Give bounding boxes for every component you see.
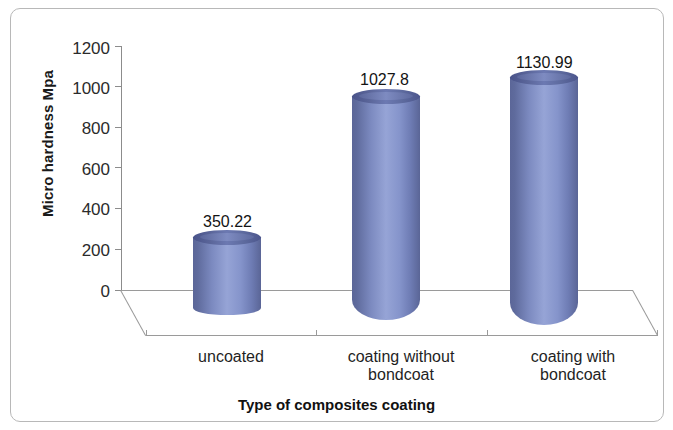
y-tick-label-200: 200 bbox=[54, 242, 110, 259]
bar-top-uncoated bbox=[193, 230, 261, 245]
bar-body-coating-without-bondcoat bbox=[352, 96, 420, 320]
y-tick-label-1000: 1000 bbox=[54, 80, 110, 97]
x-category-uncoated-line1: uncoated bbox=[198, 348, 264, 365]
bar-top-highlight-uncoated bbox=[200, 233, 254, 241]
chart-figure: Micro hardness Mpa 1200 1000 800 600 400… bbox=[0, 0, 673, 430]
x-category-label-uncoated: uncoated bbox=[166, 348, 296, 366]
y-tick-label-0: 0 bbox=[54, 283, 110, 300]
plot-floor-right-edge bbox=[632, 290, 658, 336]
y-tick-mark-200 bbox=[115, 249, 122, 250]
y-tick-mark-1200 bbox=[115, 46, 122, 47]
x-tick-mark-3 bbox=[657, 330, 658, 336]
bar-coating-without-bondcoat bbox=[352, 96, 420, 320]
y-tick-label-400: 400 bbox=[54, 201, 110, 218]
bar-body-uncoated bbox=[193, 237, 261, 315]
x-axis-title: Type of composites coating bbox=[0, 396, 673, 413]
x-category-coating-without-bondcoat-line1: coating without bbox=[326, 348, 476, 366]
x-category-coating-with-bondcoat-line2: bondcoat bbox=[503, 366, 643, 384]
x-tick-mark-0 bbox=[146, 330, 147, 336]
bar-top-coating-with-bondcoat bbox=[510, 70, 578, 85]
y-tick-label-800: 800 bbox=[54, 120, 110, 137]
x-tick-mark-2 bbox=[487, 330, 488, 336]
bar-body-coating-with-bondcoat bbox=[510, 77, 578, 325]
y-tick-label-1200: 1200 bbox=[54, 40, 110, 57]
y-tick-mark-400 bbox=[115, 208, 122, 209]
bar-coating-with-bondcoat bbox=[510, 77, 578, 325]
plot-floor-left-edge bbox=[120, 290, 146, 336]
bar-top-highlight-coating-without-bondcoat bbox=[359, 92, 413, 100]
y-tick-label-600: 600 bbox=[54, 161, 110, 178]
bar-value-label-uncoated: 350.22 bbox=[203, 214, 252, 230]
x-category-label-coating-without-bondcoat: coating without bondcoat bbox=[326, 348, 476, 384]
bar-uncoated bbox=[193, 237, 261, 315]
x-axis-line bbox=[146, 335, 658, 336]
x-category-label-coating-with-bondcoat: coating with bondcoat bbox=[503, 348, 643, 384]
bar-top-coating-without-bondcoat bbox=[352, 89, 420, 104]
y-tick-mark-1000 bbox=[115, 86, 122, 87]
y-axis-line bbox=[121, 46, 122, 291]
bar-value-label-coating-without-bondcoat: 1027.8 bbox=[360, 72, 409, 88]
x-category-coating-with-bondcoat-line1: coating with bbox=[503, 348, 643, 366]
y-tick-mark-600 bbox=[115, 167, 122, 168]
x-tick-mark-1 bbox=[316, 330, 317, 336]
y-tick-mark-800 bbox=[115, 127, 122, 128]
bar-top-highlight-coating-with-bondcoat bbox=[517, 73, 571, 81]
x-category-coating-without-bondcoat-line2: bondcoat bbox=[326, 366, 476, 384]
y-axis-tick-labels: 1200 1000 800 600 400 200 0 bbox=[48, 0, 110, 430]
bar-value-label-coating-with-bondcoat: 1130.99 bbox=[516, 55, 573, 71]
